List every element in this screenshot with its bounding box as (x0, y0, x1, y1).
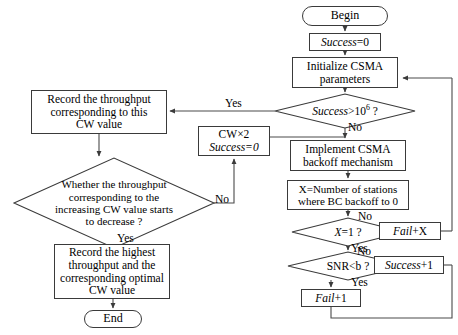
node-begin[interactable]: Begin (302, 6, 388, 26)
node-begin-label: Begin (331, 9, 360, 22)
node-initialize-csma-label: Initialize CSMA parameters (307, 60, 383, 86)
node-initialize-csma[interactable]: Initialize CSMA parameters (292, 57, 398, 88)
node-success-init-label: Success=0 (321, 36, 369, 49)
diamond-shape (275, 94, 415, 128)
node-success-init[interactable]: Success=0 (309, 33, 381, 51)
edge-label-yes-snr: Yes (351, 277, 368, 289)
node-x-stations[interactable]: X=Number of stations where BC backoff to… (287, 180, 409, 210)
node-cw-times-2[interactable]: CW×2 Success=0 (198, 126, 270, 156)
node-fail-plus-x-label: Fail+X (393, 225, 427, 238)
node-record-highest-label: Record the highest throughput and the co… (60, 246, 164, 298)
flowchart-canvas: Begin Success=0 Initialize CSMA paramete… (0, 0, 458, 335)
edge-label-yes-success-threshold: Yes (225, 98, 242, 110)
node-record-throughput-label: Record the throughput corresponding to t… (47, 93, 150, 132)
node-throughput-decrease-decision[interactable]: Whether the throughput corresponding to … (14, 158, 214, 248)
node-fail-plus-1-label: Fail+1 (315, 292, 346, 305)
node-success-plus-1[interactable]: Success+1 (374, 256, 444, 274)
node-implement-csma-backoff[interactable]: Implement CSMA backoff mechanism (290, 140, 406, 171)
node-x-stations-label: X=Number of stations where BC backoff to… (298, 183, 398, 208)
node-implement-csma-label: Implement CSMA backoff mechanism (303, 143, 393, 169)
node-fail-plus-1[interactable]: Fail+1 (301, 289, 361, 307)
node-record-highest[interactable]: Record the highest throughput and the co… (54, 244, 170, 299)
node-end[interactable]: End (84, 310, 142, 328)
edge-label-no-snr: No (357, 246, 371, 258)
diamond-shape (14, 158, 214, 248)
node-fail-plus-x[interactable]: Fail+X (379, 222, 441, 240)
node-record-throughput[interactable]: Record the throughput corresponding to t… (31, 90, 167, 134)
node-cw-times-2-label: CW×2 Success=0 (209, 128, 258, 154)
node-end-label: End (103, 312, 122, 325)
edge-label-no-success-threshold: No (348, 122, 362, 134)
node-success-threshold-decision[interactable]: Success>106 ? (275, 94, 415, 128)
edge-label-no-x-equals-one: No (358, 211, 372, 223)
edge-label-no-throughput-decrease: No (215, 194, 229, 206)
node-success-plus-1-label: Success+1 (385, 259, 433, 272)
edge-label-yes-throughput-decrease: Yes (117, 233, 134, 245)
